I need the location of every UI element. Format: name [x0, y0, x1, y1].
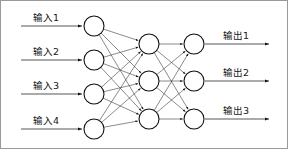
- edge-hid1-out2: [157, 50, 186, 74]
- input-label-group: 输入1输入2输入3输入4: [33, 12, 59, 126]
- hidden-node-2: [139, 71, 159, 91]
- input-node-2: [84, 50, 104, 70]
- output-node-1: [184, 34, 204, 54]
- edge-hid3-out2: [157, 88, 186, 112]
- edge-in1-hid1: [104, 29, 139, 40]
- edge-in4-hid2: [102, 88, 141, 122]
- hidden-node-3: [139, 109, 159, 129]
- output-label-group: 输出1输出2输出3: [223, 30, 249, 116]
- output-label-1: 输出1: [223, 30, 249, 41]
- edge-in4-hid3: [104, 121, 138, 127]
- output-label-3: 输出3: [223, 105, 249, 116]
- neural-network-diagram: 输入1输入2输入3输入4 输出1输出2输出3: [0, 0, 288, 149]
- edge-in2-hid3: [101, 67, 142, 110]
- input-to-hidden-edges: [99, 29, 143, 127]
- output-node-2: [184, 71, 204, 91]
- input-arrow-group: [21, 26, 82, 129]
- input-node-1: [84, 16, 104, 36]
- input-node-3: [84, 84, 104, 104]
- edge-hid2-out3: [157, 87, 186, 111]
- edge-in1-hid3: [99, 35, 143, 110]
- input-label-3: 输入3: [33, 80, 59, 91]
- edge-in3-hid1: [101, 52, 140, 88]
- output-node-group: [184, 34, 204, 129]
- input-node-4: [84, 119, 104, 139]
- output-node-3: [184, 109, 204, 129]
- input-label-4: 输入4: [33, 115, 59, 126]
- input-label-1: 输入1: [33, 12, 59, 23]
- input-label-2: 输入2: [33, 46, 59, 57]
- input-node-group: [84, 16, 104, 139]
- edge-in1-hid2: [101, 33, 141, 73]
- output-label-2: 输出2: [223, 67, 249, 78]
- network-canvas: 输入1输入2输入3输入4 输出1输出2输出3: [1, 1, 288, 149]
- hidden-node-group: [139, 34, 159, 129]
- edge-in2-hid1: [104, 47, 139, 57]
- edge-hid2-out1: [157, 51, 186, 75]
- hidden-node-1: [139, 34, 159, 54]
- edge-in4-hid1: [99, 53, 142, 120]
